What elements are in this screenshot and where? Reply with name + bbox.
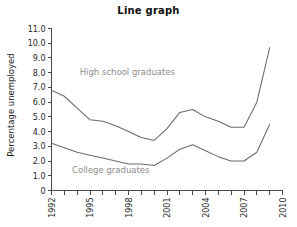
x-axis-tick-labels: 1992199519982001200420072010 xyxy=(48,198,288,218)
y-axis-ticks xyxy=(48,29,52,191)
y-tick-label: 5.0 xyxy=(33,113,46,122)
series-line xyxy=(52,48,270,141)
x-axis: 1992199519982001200420072010 xyxy=(48,191,288,218)
y-tick-label: 0 xyxy=(40,187,45,196)
y-tick-label: 8.0 xyxy=(33,69,46,78)
x-tick-label: 1995 xyxy=(86,198,95,218)
x-tick-label: 2001 xyxy=(163,198,172,218)
y-tick-label: 9.0 xyxy=(33,54,46,63)
series-label: College graduates xyxy=(72,165,150,175)
series-label: High school graduates xyxy=(80,67,176,77)
y-tick-label: 4.0 xyxy=(33,128,46,137)
data-series-labels: High school graduatesCollege graduates xyxy=(72,67,176,175)
y-tick-label: 3.0 xyxy=(33,142,46,151)
x-tick-label: 1998 xyxy=(125,198,134,218)
y-axis: 01.02.03.04.05.06.07.08.09.010.011.0 xyxy=(28,25,52,196)
data-series-lines xyxy=(52,48,270,166)
y-tick-label: 6.0 xyxy=(33,98,46,107)
x-tick-label: 1992 xyxy=(48,198,57,218)
y-axis-tick-labels: 01.02.03.04.05.06.07.08.09.010.011.0 xyxy=(28,25,46,196)
x-tick-label: 2010 xyxy=(279,198,288,218)
x-axis-ticks xyxy=(52,191,283,195)
y-tick-label: 11.0 xyxy=(28,25,46,34)
line-graph-figure: Line graph 01.02.03.04.05.06.07.08.09.01… xyxy=(0,0,297,227)
y-tick-label: 2.0 xyxy=(33,157,46,166)
x-tick-label: 2004 xyxy=(202,198,211,218)
chart-plot-area: 01.02.03.04.05.06.07.08.09.010.011.0 199… xyxy=(0,0,297,227)
y-tick-label: 1.0 xyxy=(33,172,46,181)
x-tick-label: 2007 xyxy=(240,198,249,218)
series-line xyxy=(52,124,270,165)
y-tick-label: 10.0 xyxy=(28,39,46,48)
y-axis-title: Percentage unemployed xyxy=(6,53,16,156)
y-tick-label: 7.0 xyxy=(33,83,46,92)
